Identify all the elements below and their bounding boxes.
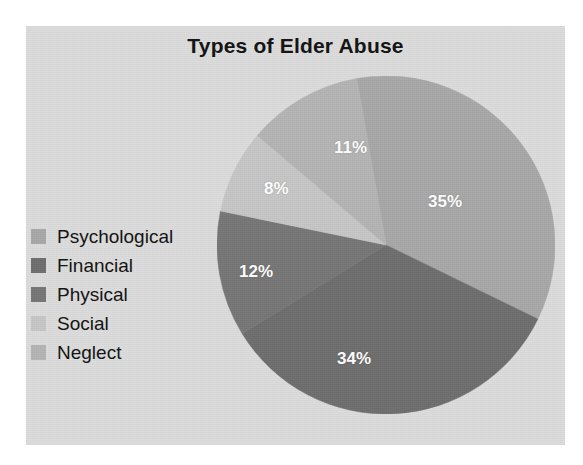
legend-item-label: Financial: [57, 256, 133, 275]
pie-svg: [217, 76, 555, 414]
chart-title: Types of Elder Abuse: [26, 34, 565, 58]
slice-label-financial: 34%: [337, 349, 371, 369]
slice-label-social: 8%: [264, 179, 289, 199]
slice-label-physical: 12%: [239, 262, 273, 282]
legend-item-neglect: Neglect: [31, 338, 206, 367]
pie-slice-group: [217, 76, 555, 414]
legend-swatch-icon: [31, 345, 46, 360]
slice-label-neglect: 11%: [334, 138, 367, 158]
legend-item-label: Physical: [57, 285, 128, 304]
slice-label-psychological: 35%: [428, 192, 462, 212]
legend-swatch-icon: [31, 258, 46, 273]
legend-item-financial: Financial: [31, 251, 206, 280]
legend-item-physical: Physical: [31, 280, 206, 309]
chart-container: Types of Elder Abuse 35% 34% 12% 8% 11% …: [26, 26, 565, 445]
chart-legend: Psychological Financial Physical Social …: [31, 222, 206, 367]
legend-item-label: Psychological: [57, 227, 173, 246]
legend-swatch-icon: [31, 316, 46, 331]
legend-swatch-icon: [31, 229, 46, 244]
pie-chart: 35% 34% 12% 8% 11%: [217, 76, 555, 414]
legend-item-label: Neglect: [57, 343, 121, 362]
legend-item-label: Social: [57, 314, 109, 333]
legend-swatch-icon: [31, 287, 46, 302]
legend-item-social: Social: [31, 309, 206, 338]
legend-item-psychological: Psychological: [31, 222, 206, 251]
